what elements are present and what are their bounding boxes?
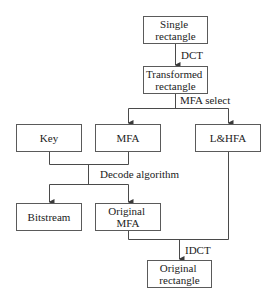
- svg-text:Original rectangle: Original rectangle: [159, 262, 199, 286]
- node-label: Original: [108, 205, 145, 217]
- node-label: rectangle: [155, 80, 195, 92]
- node-transformed-rectangle: Transformed rectangle: [144, 67, 208, 94]
- node-label: MFA: [116, 217, 139, 229]
- node-label: Original: [160, 262, 197, 274]
- node-label: Key: [40, 132, 59, 144]
- node-original-rectangle: Original rectangle: [148, 261, 212, 288]
- node-mfa: MFA: [96, 125, 161, 152]
- edge-label-dct: DCT: [181, 49, 203, 61]
- node-key: Key: [17, 125, 82, 152]
- edge-label-decode-algorithm: Decode algorithm: [100, 168, 180, 180]
- node-label: Single: [160, 18, 188, 30]
- node-original-mfa: Original MFA: [96, 204, 161, 231]
- node-label: Transformed: [146, 68, 203, 80]
- edge-label-mfa-select: MFA select: [180, 94, 230, 106]
- node-label: rectangle: [159, 274, 199, 286]
- node-label: L&HFA: [210, 132, 247, 144]
- node-label: rectangle: [155, 30, 195, 42]
- node-bitstream: Bitstream: [17, 204, 82, 231]
- node-label: MFA: [116, 132, 139, 144]
- node-lhfa: L&HFA: [196, 125, 261, 152]
- node-single-rectangle: Single rectangle: [144, 17, 208, 44]
- svg-text:Single rectangle: Single rectangle: [155, 18, 195, 42]
- node-label: Bitstream: [28, 211, 71, 223]
- edge-label-idct: IDCT: [185, 244, 211, 256]
- flowchart-diagram: Single rectangle DCT Transformed rectang…: [0, 0, 274, 305]
